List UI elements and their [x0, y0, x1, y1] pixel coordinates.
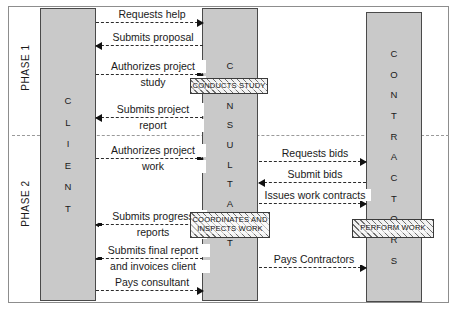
consultant-letter-2: N [227, 101, 234, 111]
activity-perform-work: PERFORM WORK [352, 219, 434, 238]
actor-column-consultant: C O N S U L T A N T [202, 8, 258, 301]
client-letter-4: N [65, 182, 72, 192]
arrow-issues-work-contracts [259, 203, 366, 204]
arrowhead-right-icon [360, 158, 367, 166]
label-submits-final-report-line2: and invoices client [96, 260, 210, 273]
label-pays-consultant: Pays consultant [108, 276, 196, 288]
arrow-submit-bids [259, 182, 366, 183]
label-submits-project-report-line2: report [102, 119, 204, 132]
arrow-pays-contractors [259, 267, 366, 268]
label-authorizes-project-work-line1: Authorizes project [100, 144, 206, 157]
diagram-canvas: PHASE 1 PHASE 2 C L I E N T C O N S U L … [0, 0, 457, 314]
client-letter-0: C [65, 96, 72, 106]
consultant-letter-9: T [227, 238, 233, 248]
activity-conducts-study: CONDUCTS STUDY [190, 78, 268, 94]
label-submits-project-report-line1: Submits project [102, 103, 204, 116]
phase-label-1: PHASE 1 [20, 33, 31, 103]
consultant-letter-3: S [227, 120, 233, 130]
arrow-authorizes-project-work [96, 158, 203, 159]
arrow-submits-proposal [96, 45, 203, 46]
consultant-letter-6: T [227, 179, 233, 189]
client-letter-1: L [65, 118, 70, 128]
consultant-letter-0: C [227, 61, 234, 71]
contractors-letter-0: C [391, 49, 398, 59]
label-requests-bids: Requests bids [272, 147, 358, 159]
phase-label-2: PHASE 2 [20, 169, 31, 239]
arrow-submits-final-report [96, 258, 203, 259]
consultant-letter-5: L [227, 160, 232, 170]
label-requests-help: Requests help [110, 8, 194, 20]
contractors-letter-3: T [391, 111, 397, 121]
activity-conducts-study-label: CONDUCTS STUDY [192, 82, 267, 91]
arrow-requests-bids [259, 161, 366, 162]
contractors-letter-6: C [391, 173, 398, 183]
actor-column-client: C L I E N T [40, 8, 96, 301]
client-letter-5: T [65, 204, 71, 214]
arrowhead-left-icon [95, 42, 102, 50]
actor-column-contractors: C O N T R A C T O R S [366, 12, 422, 302]
client-letter-3: E [65, 161, 71, 171]
label-authorizes-project-work-line2: work [100, 160, 206, 173]
consultant-letter-4: U [227, 140, 234, 150]
contractors-letter-4: R [391, 132, 398, 142]
contractors-letter-5: A [391, 152, 397, 162]
arrowhead-left-icon [258, 179, 265, 187]
label-submit-bids: Submit bids [274, 168, 356, 180]
arrow-submits-project-report [96, 117, 203, 118]
contractors-letter-10: S [391, 256, 397, 266]
arrow-pays-consultant [96, 290, 203, 291]
arrow-authorizes-project-study [96, 74, 203, 75]
actor-label-client: C L I E N T [65, 90, 72, 219]
activity-coordinates-inspects-work: COORDINATES AND INSPECTS WORK [190, 212, 270, 238]
client-letter-2: I [67, 139, 70, 149]
label-pays-contractors: Pays Contractors [262, 253, 366, 265]
label-authorizes-project-study-line1: Authorizes project [100, 60, 206, 73]
label-issues-work-contracts: Issues work contracts [259, 189, 371, 201]
arrow-submits-progress-reports [96, 224, 203, 225]
contractors-letter-2: N [391, 90, 398, 100]
label-submits-proposal: Submits proposal [105, 31, 201, 43]
consultant-letter-7: A [227, 199, 233, 209]
activity-coordinates-label: COORDINATES AND INSPECTS WORK [191, 216, 269, 233]
contractors-letter-1: O [390, 70, 397, 80]
activity-perform-work-label: PERFORM WORK [359, 224, 427, 233]
arrowhead-left-icon [95, 114, 102, 122]
arrow-requests-help [96, 22, 203, 23]
contractors-letter-7: T [391, 194, 397, 204]
arrowhead-right-icon [197, 19, 204, 27]
arrowhead-right-icon [197, 287, 204, 295]
label-submits-final-report-line1: Submits final report [96, 244, 210, 257]
